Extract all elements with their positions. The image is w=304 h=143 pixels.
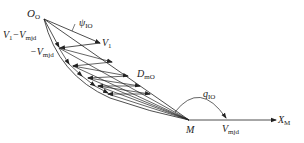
q-label: qIO <box>203 88 215 101</box>
psi-angle-mark <box>72 24 75 31</box>
v1-minus-vmjd-vector <box>44 19 59 47</box>
m-label: M <box>185 124 195 135</box>
d-mo-line <box>44 19 189 120</box>
vector-diagram: OO ψIO V1 V1−Vmjd −Vmjd DmO qIO M Vmjd X… <box>0 0 304 143</box>
iteration-arrows <box>59 48 189 120</box>
origin-label: OO <box>27 7 40 21</box>
d-mo-label: DmO <box>136 68 155 81</box>
q-angle-arc <box>175 97 226 118</box>
v1-minus-vmjd-label: V1−Vmjd <box>3 29 37 42</box>
neg-vmjd-label: −Vmjd <box>30 46 54 59</box>
psi-label: ψIO <box>79 17 93 30</box>
v1-label: V1 <box>102 37 112 50</box>
vmjd-label: Vmjd <box>222 123 239 136</box>
x-axis-label: XM <box>277 114 291 127</box>
